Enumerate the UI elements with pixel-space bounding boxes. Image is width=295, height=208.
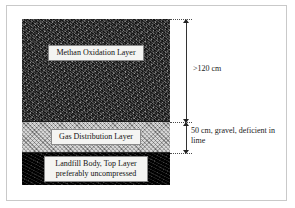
landfill-body-label-line-1: Landfill Body, Top Layer xyxy=(55,159,136,169)
dimension-rail-lower xyxy=(186,125,187,151)
dimension-rail-upper xyxy=(186,22,187,120)
gas-distribution-layer: Gas Distribution Layer xyxy=(22,122,170,153)
methane-oxidation-layer: Methan Oxidation Layer xyxy=(22,19,170,122)
arrow-up-icon xyxy=(183,19,189,23)
arrow-down-icon xyxy=(183,150,189,154)
gas-distribution-layer-label: Gas Distribution Layer xyxy=(51,129,141,145)
dimension-label-lower: 50 cm, gravel, deficient in lime xyxy=(191,126,283,145)
dimension-label-upper: >120 cm xyxy=(193,64,221,74)
landfill-body-layer: Landfill Body, Top Layer preferably unco… xyxy=(22,153,170,185)
landfill-body-layer-label: Landfill Body, Top Layer preferably unco… xyxy=(44,156,147,182)
methane-oxidation-layer-label: Methan Oxidation Layer xyxy=(48,45,143,61)
arrow-up-icon xyxy=(183,122,189,126)
figure-root: Methan Oxidation Layer Gas Distribution … xyxy=(0,0,295,208)
landfill-body-label-line-2: preferably uncompressed xyxy=(55,169,136,179)
layer-stack: Methan Oxidation Layer Gas Distribution … xyxy=(22,19,170,185)
